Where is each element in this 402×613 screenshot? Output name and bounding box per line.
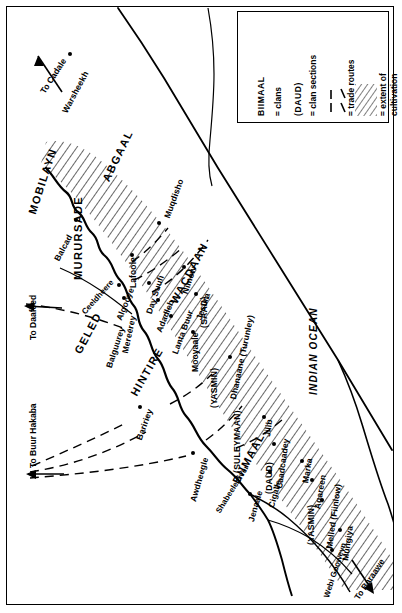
clan-section-label-yasmin: (YASMIN) — [209, 368, 219, 408]
dot-algooye — [117, 283, 121, 287]
dot-day-suufi — [147, 281, 151, 285]
legend-swatch-trade-routes — [328, 86, 348, 116]
dot-caadcaadey — [272, 442, 276, 446]
ocean-label: INDIAN OCEAN — [308, 307, 319, 395]
dot-muqdisho — [157, 221, 161, 225]
legend-swatch-cultivation — [355, 84, 377, 116]
dot-jesiira — [194, 292, 198, 296]
legend-label-cultivation: = extent of cultivation — [378, 56, 400, 116]
dot-awdheegle — [191, 451, 195, 455]
settlement-label-lafoole: Lafoole — [128, 257, 138, 288]
route-label-to-buur-hakaba: To Buur Hakaba — [28, 403, 38, 468]
clan-section-label-yasmin-south: (YASMIN) — [306, 505, 316, 545]
legend-label-clan-sections: = clan sections — [308, 55, 318, 116]
trade-route-to-buur-hakaba-a — [30, 432, 146, 472]
dot-jenaale — [248, 492, 252, 496]
legend-key-clans: BIIMAAL — [256, 76, 266, 116]
dot-dhanaane — [228, 355, 232, 359]
route-label-to-daafeed: To Daafeed — [28, 295, 38, 340]
legend-key-clan-sections: (DAUD) — [293, 82, 303, 116]
dot-warsheekh — [68, 52, 72, 56]
legend-box: BIIMAAL = clans (DAUD) = clan sections =… — [237, 11, 389, 123]
dot-mungiya — [338, 528, 342, 532]
legend-label-clans: = clans — [273, 87, 283, 116]
trade-route-to-daafeed — [26, 304, 128, 330]
clan-section-label-suleymaan: (SULEYMAAN) — [232, 410, 242, 473]
trade-route-to-buur-hakaba-c — [32, 424, 124, 466]
dot-baririey — [138, 405, 142, 409]
settlement-label-mooyaale: Mooyaale — [190, 332, 200, 372]
map-figure: To Cadale To Daafeed To Buur Hakaba To B… — [0, 0, 402, 613]
